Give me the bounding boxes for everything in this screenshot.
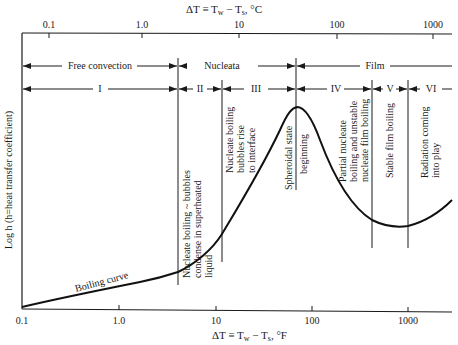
annotation-spheroidal-beginning: beginning <box>298 134 309 174</box>
free-convection-label: Free convection <box>68 60 132 71</box>
bottom-axis-title: ΔT ≡ Tw − Ts, °F <box>212 329 287 343</box>
annotation-regime-iv: Partial nucleate boiling and unstable nu… <box>337 98 370 182</box>
annotation-regime-iii: Nucleate boiling bubbles rise to interfa… <box>224 104 257 173</box>
top-tick-label: 10 <box>234 19 244 30</box>
top-tick-label: 1.0 <box>136 19 149 30</box>
regime-iv-label: IV <box>331 83 342 94</box>
regime-i-label: I <box>98 83 101 94</box>
annotation-spheroidal: Spheroidal state <box>283 125 294 190</box>
annotation-regime-ii: Nucleate boiling ~ bubbles condense in s… <box>181 168 214 278</box>
bottom-tick-label: 0.1 <box>16 315 29 326</box>
top-tick-label: 100 <box>330 19 345 30</box>
annotation-regime-vi: Radiation coming into play <box>419 104 441 178</box>
top-tick-label: 1000 <box>423 19 443 30</box>
regime-vi-label: VI <box>426 83 437 94</box>
top-tick-label: 0.1 <box>43 19 56 30</box>
bottom-tick-label: 10 <box>211 315 221 326</box>
nucleata-label: Nucleata <box>204 60 240 71</box>
top-axis-title: ΔT ≡ Tw − Ts, °C <box>186 3 262 17</box>
bottom-tick-label: 1.0 <box>113 315 126 326</box>
film-label: Film <box>366 60 385 71</box>
bottom-axis: 0.1 1.0 10 100 1000 <box>16 305 452 326</box>
top-axis: 0.1 1.0 10 100 1000 <box>22 19 452 39</box>
annotation-regime-v: Stable film boiling <box>384 103 395 178</box>
boiling-curve-diagram: ΔT ≡ Tw − Ts, °C 0.1 1.0 10 100 1000 Log… <box>0 0 458 345</box>
bottom-tick-label: 1000 <box>398 315 418 326</box>
y-axis-title: Log h (h=heat transfer coefficient) <box>3 111 15 249</box>
regime-v-label: V <box>386 83 394 94</box>
regime-iii-label: III <box>251 83 261 94</box>
regime-ii-label: II <box>197 83 204 94</box>
bottom-tick-label: 100 <box>305 315 320 326</box>
